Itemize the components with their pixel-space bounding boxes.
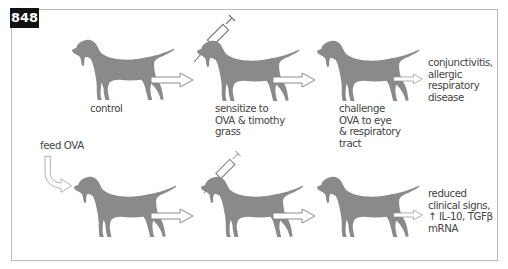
label-line: clinical signs,	[428, 200, 493, 212]
arrow-right-icon	[272, 208, 316, 224]
label-line: challenge	[339, 103, 401, 115]
dog-icon-challenge	[313, 37, 421, 105]
outcome-bottom: reduced clinical signs, ↑ IL-10, TGFβ mR…	[428, 188, 493, 234]
label-line: sensitize to	[215, 103, 285, 115]
arrow-right-icon	[150, 72, 194, 88]
outcome-top: conjunctivitis, allergic respiratory dis…	[428, 57, 493, 103]
label-line: OVA to eye	[339, 115, 401, 127]
figure-number-badge: 848	[10, 8, 39, 28]
dog-icon-control	[68, 36, 176, 104]
dog-icon-sensitize	[193, 37, 301, 105]
label-line: tract	[339, 138, 401, 150]
label-sensitize: sensitize to OVA & timothy grass	[215, 103, 285, 138]
label-line: reduced	[428, 188, 493, 200]
dog-icon-challenge-fed	[313, 173, 421, 241]
dog-icon-fed	[70, 173, 178, 241]
label-line: ↑ IL-10, TGFβ	[428, 211, 493, 223]
dog-icon-sensitize-fed	[197, 173, 305, 241]
label-line: allergic	[428, 69, 493, 81]
label-feed-ova: feed OVA	[40, 140, 84, 152]
arrow-right-icon	[393, 208, 423, 222]
arrow-right-icon	[393, 72, 423, 86]
label-challenge: challenge OVA to eye & respiratory tract	[339, 103, 401, 149]
label-line: grass	[215, 126, 285, 138]
label-line: conjunctivitis,	[428, 57, 493, 69]
label-line: respiratory	[428, 80, 493, 92]
label-line: OVA & timothy	[215, 115, 285, 127]
label-line: mRNA	[428, 223, 493, 235]
label-line: disease	[428, 92, 493, 104]
label-line: & respiratory	[339, 126, 401, 138]
label-control: control	[90, 103, 123, 115]
arrow-right-icon	[272, 72, 316, 88]
arrow-right-icon	[150, 208, 194, 224]
